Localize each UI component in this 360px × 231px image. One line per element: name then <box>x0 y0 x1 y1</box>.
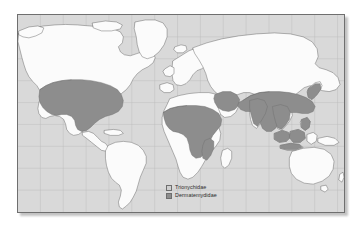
legend-label-trionychidae: Trionychidae <box>175 185 206 190</box>
land-iberia <box>160 83 174 93</box>
legend-swatch-trionychidae <box>166 185 172 191</box>
world-distribution-map: Trionychidae Dermatemydidae <box>17 14 345 213</box>
land-caribbean <box>104 129 123 135</box>
map-legend: Trionychidae Dermatemydidae <box>166 185 217 199</box>
map-plate: Trionychidae Dermatemydidae <box>18 15 344 212</box>
legend-item-dermatemydidae: Dermatemydidae <box>166 193 217 199</box>
map-graphic <box>18 15 344 212</box>
legend-label-dermatemydidae: Dermatemydidae <box>175 193 217 198</box>
legend-swatch-dermatemydidae <box>166 193 172 199</box>
figure-root: Trionychidae Dermatemydidae <box>0 0 360 231</box>
legend-item-trionychidae: Trionychidae <box>166 185 217 191</box>
